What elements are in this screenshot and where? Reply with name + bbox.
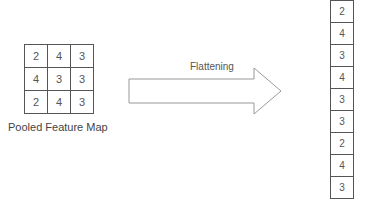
vector-cell: 2 [331,133,354,155]
grid-cell: 3 [48,68,71,91]
vector-cell: 4 [331,67,354,89]
grid-row: 2 4 3 [25,91,94,114]
vector-cell: 2 [331,1,354,23]
vector-cell: 3 [331,45,354,67]
grid-cell: 4 [48,91,71,114]
grid-cell: 2 [25,91,48,114]
vector-cell: 3 [331,111,354,133]
vector-cell: 4 [331,23,354,45]
grid-row: 4 3 3 [25,68,94,91]
grid-cell: 4 [25,68,48,91]
vector-cell: 4 [331,155,354,177]
grid-row: 2 4 3 [25,45,94,68]
grid-cell: 3 [71,91,94,114]
pooled-feature-map-caption: Pooled Feature Map [8,121,108,133]
grid-cell: 4 [48,45,71,68]
grid-cell: 3 [71,68,94,91]
vector-cell: 3 [331,89,354,111]
grid-cell: 3 [71,45,94,68]
right-arrow-icon [128,66,284,116]
vector-cell: 3 [331,177,354,199]
grid-cell: 2 [25,45,48,68]
pooled-feature-map-grid: 2 4 3 4 3 3 2 4 3 [24,44,94,114]
flattened-vector: 2 4 3 4 3 3 2 4 3 [330,0,354,199]
